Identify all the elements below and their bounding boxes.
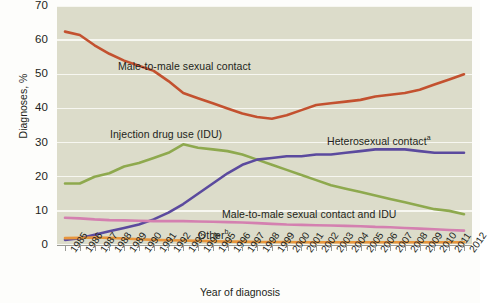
x-tick (228, 245, 229, 251)
x-tick (124, 245, 125, 251)
series-line (65, 144, 464, 214)
x-tick (95, 245, 96, 251)
x-tick (375, 245, 376, 251)
series-label: Male-to-male sexual contact (118, 60, 251, 72)
x-tick (434, 245, 435, 251)
x-tick (65, 245, 66, 251)
x-tick (287, 245, 288, 251)
y-tick-label: 0 (8, 238, 48, 250)
x-tick (464, 245, 465, 251)
x-tick (154, 245, 155, 251)
y-tick-label: 50 (8, 67, 48, 79)
y-tick-label: 40 (8, 101, 48, 113)
x-tick (257, 245, 258, 251)
x-tick (405, 245, 406, 251)
x-tick (331, 245, 332, 251)
y-tick-label: 30 (8, 136, 48, 148)
x-tick (242, 245, 243, 251)
y-tick-label: 70 (8, 0, 48, 11)
x-tick (449, 245, 450, 251)
x-tick (390, 245, 391, 251)
series-line (65, 32, 464, 119)
x-tick (109, 245, 110, 251)
x-tick (346, 245, 347, 251)
x-tick (213, 245, 214, 251)
series-label: Otherb (198, 228, 228, 241)
x-tick (168, 245, 169, 251)
x-tick (316, 245, 317, 251)
footnote-marker: a (427, 134, 431, 141)
y-tick-label: 20 (8, 170, 48, 182)
y-tick-label: 10 (8, 204, 48, 216)
x-tick (420, 245, 421, 251)
x-axis-title: Year of diagnosis (0, 286, 480, 298)
series-label: Injection drug use (IDU) (110, 128, 222, 140)
footnote-marker: b (225, 228, 229, 235)
x-tick (80, 245, 81, 251)
x-tick (198, 245, 199, 251)
x-tick (139, 245, 140, 251)
series-label: Heterosexual contacta (327, 134, 431, 147)
x-tick (361, 245, 362, 251)
x-tick (272, 245, 273, 251)
y-tick-label: 60 (8, 33, 48, 45)
series-label: Male-to-male sexual contact and IDU (222, 208, 397, 220)
x-tick (301, 245, 302, 251)
x-tick (183, 245, 184, 251)
